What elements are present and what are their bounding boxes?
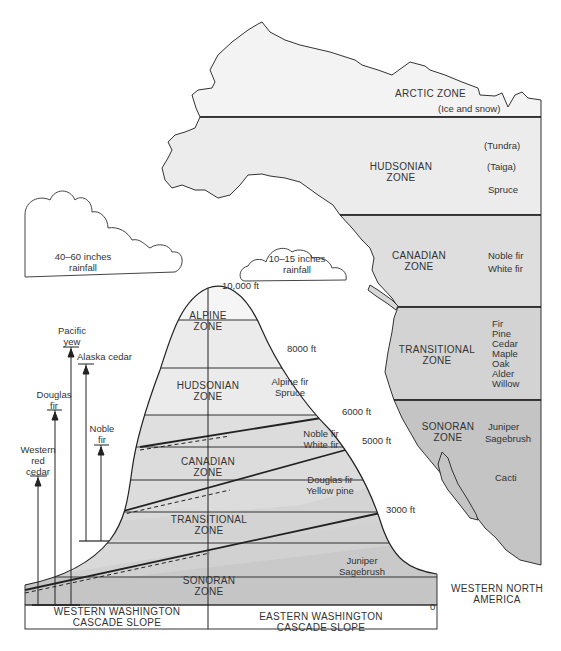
elevation-3000: 3000 ft: [386, 504, 415, 515]
map-arctic-vegetation: (Ice and snow): [438, 103, 500, 114]
mountain-transitional-vegetation: Douglas firYellow pine: [302, 474, 358, 496]
map-hudsonian-veg-spruce: Spruce: [488, 184, 518, 195]
map-transitional-veg-willow: Willow: [492, 378, 519, 389]
map-sonoran-veg-sagebrush: Sagebrush: [485, 433, 531, 444]
mountain-sonoran-zone-label: SONORANZONE: [178, 575, 240, 597]
map-canadian-zone-label: CANADIAN ZONE: [385, 250, 453, 272]
mountain-canadian-vegetation: Noble firWhite fir: [296, 428, 346, 450]
western-slope-label: WESTERN WASHINGTONCASCADE SLOPE: [52, 606, 182, 628]
mountain-canadian-zone-label: CANADIANZONE: [172, 456, 244, 478]
tree-label-western-red-cedar: Westernredcedar: [18, 444, 58, 477]
cloud-east-label: 10–15 inchesrainfall: [262, 253, 332, 275]
map-sonoran-veg-cacti: Cacti: [495, 472, 517, 483]
map-canadian-veg-noble-fir: Noble fir: [488, 250, 523, 261]
mountain-hudsonian-vegetation: Alpine firSpruce: [265, 376, 315, 398]
elevation-10000: 10,000 ft: [222, 280, 259, 291]
map-hudsonian-veg-taiga: (Taiga): [487, 161, 516, 172]
tree-label-douglas-fir: Douglasfir: [34, 389, 74, 411]
map-sonoran-veg-juniper: Juniper: [488, 421, 519, 432]
mountain-alpine-zone-label: ALPINEZONE: [178, 310, 238, 332]
map-title: WESTERN NORTH AMERICA: [443, 583, 551, 605]
elevation-0: 0: [430, 601, 435, 612]
mountain-sonoran-vegetation: JuniperSagebrush: [334, 555, 390, 577]
elevation-8000: 8000 ft: [287, 343, 316, 354]
cloud-west-label: 40–60 inchesrainfall: [48, 251, 118, 273]
elevation-5000: 5000 ft: [362, 435, 391, 446]
mountain-transitional-zone-label: TRANSITIONALZONE: [170, 514, 248, 536]
map-hudsonian-veg-tundra: (Tundra): [484, 140, 520, 151]
eastern-slope-label: EASTERN WASHINGTONCASCADE SLOPE: [256, 611, 386, 633]
map-hudsonian-zone-label: HUDSONIAN ZONE: [366, 161, 436, 183]
map-arctic-zone-label: ARCTIC ZONE: [395, 88, 466, 99]
tree-label-noble-fir: Noblefir: [86, 423, 118, 445]
map-transitional-zone-label: TRANSITIONAL ZONE: [395, 344, 479, 366]
map-canadian-veg-white-fir: White fir: [488, 263, 523, 274]
mountain-hudsonian-zone-label: HUDSONIANZONE: [170, 380, 246, 402]
hudsonian-zone-region: [162, 117, 541, 215]
elevation-6000: 6000 ft: [342, 406, 371, 417]
tree-label-pacific-yew: Pacificyew: [52, 325, 92, 347]
tree-label-alaska-cedar: Alaska cedar: [77, 351, 132, 362]
map-sonoran-zone-label: SONORAN ZONE: [418, 421, 478, 443]
